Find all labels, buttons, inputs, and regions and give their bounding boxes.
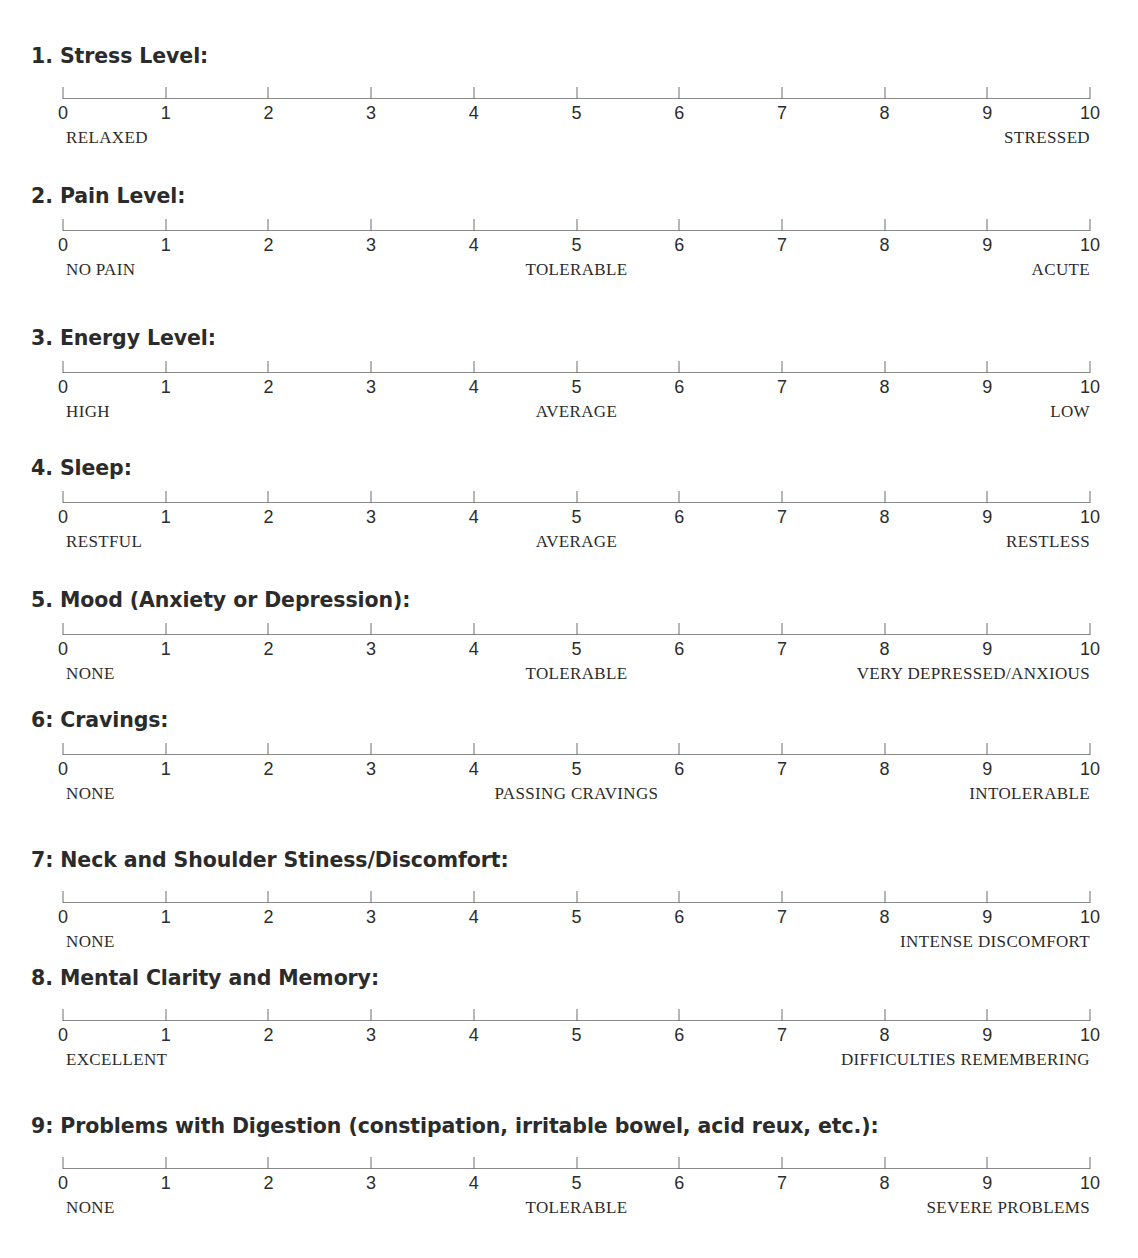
scale-tick-label[interactable]: 4 (469, 639, 479, 660)
rating-scale[interactable]: 012345678910HIGHAVERAGELOW (63, 356, 1090, 418)
scale-tick-label[interactable]: 1 (161, 1173, 171, 1194)
scale-tick-label[interactable]: 1 (161, 235, 171, 256)
scale-tick-label[interactable]: 2 (263, 759, 273, 780)
scale-tick-label[interactable]: 5 (571, 377, 581, 398)
scale-tick-label[interactable]: 10 (1080, 1025, 1100, 1046)
scale-tick[interactable] (165, 623, 166, 635)
scale-tick-label[interactable]: 1 (161, 639, 171, 660)
scale-tick[interactable] (1090, 87, 1091, 99)
scale-tick[interactable] (781, 891, 782, 903)
scale-tick[interactable] (1090, 219, 1091, 231)
scale-tick[interactable] (576, 361, 577, 373)
scale-tick[interactable] (1090, 491, 1091, 503)
scale-tick[interactable] (371, 361, 372, 373)
scale-tick[interactable] (165, 1157, 166, 1169)
scale-tick-label[interactable]: 0 (58, 759, 68, 780)
scale-tick-label[interactable]: 3 (366, 235, 376, 256)
scale-tick-label[interactable]: 10 (1080, 1173, 1100, 1194)
scale-tick[interactable] (987, 1157, 988, 1169)
scale-tick[interactable] (781, 219, 782, 231)
scale-tick-label[interactable]: 10 (1080, 907, 1100, 928)
scale-tick[interactable] (884, 491, 885, 503)
scale-tick-label[interactable]: 9 (982, 639, 992, 660)
scale-tick-label[interactable]: 6 (674, 103, 684, 124)
scale-tick[interactable] (268, 87, 269, 99)
scale-tick-label[interactable]: 8 (880, 759, 890, 780)
scale-tick[interactable] (165, 361, 166, 373)
scale-tick-label[interactable]: 3 (366, 507, 376, 528)
scale-tick-label[interactable]: 10 (1080, 377, 1100, 398)
scale-tick[interactable] (63, 623, 64, 635)
scale-tick[interactable] (781, 491, 782, 503)
scale-tick-label[interactable]: 8 (880, 507, 890, 528)
scale-tick[interactable] (371, 1157, 372, 1169)
scale-tick[interactable] (473, 743, 474, 755)
scale-tick[interactable] (473, 891, 474, 903)
scale-tick[interactable] (63, 1009, 64, 1021)
scale-tick[interactable] (576, 1157, 577, 1169)
scale-tick-label[interactable]: 2 (263, 1173, 273, 1194)
scale-tick[interactable] (1090, 623, 1091, 635)
scale-tick[interactable] (268, 623, 269, 635)
scale-tick[interactable] (987, 219, 988, 231)
scale-tick-label[interactable]: 2 (263, 639, 273, 660)
scale-tick-label[interactable]: 0 (58, 235, 68, 256)
scale-tick[interactable] (781, 1157, 782, 1169)
scale-tick[interactable] (987, 361, 988, 373)
scale-tick[interactable] (371, 87, 372, 99)
scale-tick-label[interactable]: 2 (263, 1025, 273, 1046)
scale-tick[interactable] (473, 219, 474, 231)
scale-tick[interactable] (63, 219, 64, 231)
scale-tick-label[interactable]: 7 (777, 639, 787, 660)
scale-tick[interactable] (987, 743, 988, 755)
scale-tick[interactable] (165, 219, 166, 231)
scale-tick[interactable] (884, 87, 885, 99)
scale-tick[interactable] (165, 491, 166, 503)
scale-tick[interactable] (679, 491, 680, 503)
scale-tick-label[interactable]: 6 (674, 907, 684, 928)
rating-scale[interactable]: 012345678910RESTFULAVERAGERESTLESS (63, 486, 1090, 548)
scale-tick-label[interactable]: 6 (674, 507, 684, 528)
scale-tick[interactable] (268, 491, 269, 503)
scale-tick-label[interactable]: 7 (777, 103, 787, 124)
scale-tick-label[interactable]: 7 (777, 507, 787, 528)
scale-tick-label[interactable]: 7 (777, 907, 787, 928)
scale-tick-label[interactable]: 3 (366, 377, 376, 398)
scale-tick-label[interactable]: 9 (982, 759, 992, 780)
scale-tick-label[interactable]: 0 (58, 507, 68, 528)
scale-tick-label[interactable]: 5 (571, 1025, 581, 1046)
scale-tick[interactable] (63, 743, 64, 755)
scale-tick-label[interactable]: 0 (58, 639, 68, 660)
scale-tick[interactable] (987, 891, 988, 903)
scale-tick-label[interactable]: 0 (58, 1025, 68, 1046)
scale-tick[interactable] (371, 891, 372, 903)
scale-tick-label[interactable]: 3 (366, 639, 376, 660)
scale-tick-label[interactable]: 9 (982, 1173, 992, 1194)
scale-tick[interactable] (884, 743, 885, 755)
scale-tick[interactable] (987, 491, 988, 503)
scale-tick-label[interactable]: 0 (58, 103, 68, 124)
scale-tick[interactable] (63, 491, 64, 503)
scale-tick-label[interactable]: 9 (982, 907, 992, 928)
scale-tick[interactable] (781, 1009, 782, 1021)
scale-tick[interactable] (1090, 1157, 1091, 1169)
scale-tick-label[interactable]: 7 (777, 759, 787, 780)
scale-tick-label[interactable]: 10 (1080, 507, 1100, 528)
scale-tick-label[interactable]: 3 (366, 759, 376, 780)
scale-tick[interactable] (679, 623, 680, 635)
scale-tick-label[interactable]: 2 (263, 103, 273, 124)
scale-tick[interactable] (1090, 891, 1091, 903)
scale-tick[interactable] (679, 361, 680, 373)
scale-tick[interactable] (63, 87, 64, 99)
scale-tick[interactable] (63, 891, 64, 903)
scale-tick-label[interactable]: 10 (1080, 639, 1100, 660)
scale-tick-label[interactable]: 4 (469, 759, 479, 780)
scale-tick[interactable] (987, 1009, 988, 1021)
scale-tick[interactable] (268, 891, 269, 903)
scale-tick-label[interactable]: 9 (982, 377, 992, 398)
scale-tick-label[interactable]: 8 (880, 639, 890, 660)
scale-tick-label[interactable]: 1 (161, 103, 171, 124)
scale-tick[interactable] (473, 361, 474, 373)
scale-tick-label[interactable]: 5 (571, 639, 581, 660)
scale-tick-label[interactable]: 6 (674, 235, 684, 256)
